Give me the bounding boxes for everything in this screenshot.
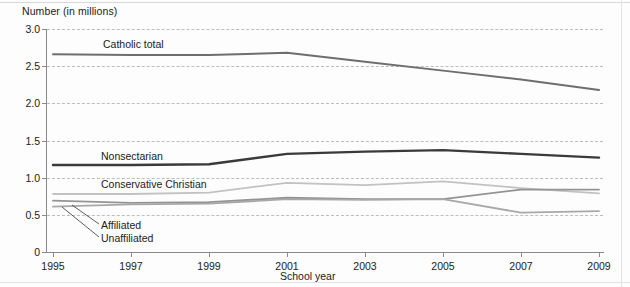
series-label-nonsectarian: Nonsectarian (101, 150, 163, 162)
leader-line-affiliated (72, 205, 99, 224)
line-chart-figure: Number (in millions) 3.0 2.5 2.0 1.5 1.0… (0, 0, 630, 287)
annotation-leader-lines (0, 0, 630, 287)
series-label-unaffiliated: Unaffiliated (101, 232, 153, 244)
series-label-affiliated: Affiliated (101, 219, 141, 231)
series-label-catholic-total: Catholic total (103, 38, 164, 50)
series-label-conservative-christian: Conservative Christian (101, 178, 207, 190)
